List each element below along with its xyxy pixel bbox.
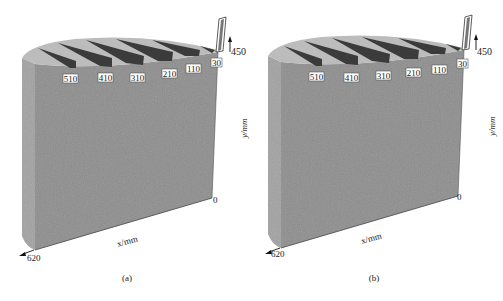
panel-a: 510 410 310 210 110 30 450 y/mm 0 x/mm 6… [19,17,249,283]
x-axis-end-tick: 620 [27,253,41,263]
y-axis-label: y/mm [487,116,497,137]
inlet-pipe [216,17,226,52]
y-axis-top-tick: 450 [231,46,246,57]
slot-label: 410 [99,73,113,83]
y-axis-label: y/mm [239,118,249,139]
x-axis-end-tick: 620 [271,249,285,259]
side-face [22,58,35,250]
panel-caption: (b) [369,273,380,283]
front-face [281,50,464,248]
slot-label: 30 [458,59,468,69]
x-axis-label: x/mm [360,231,383,246]
slot-label: 510 [310,72,324,82]
y-axis-bottom-tick: 0 [457,192,462,202]
slot-label: 410 [345,73,359,83]
slot-label: 210 [163,69,177,79]
panel-caption: (a) [122,273,132,283]
figure-canvas: 510 410 310 210 110 30 450 y/mm 0 x/mm 6… [0,0,503,301]
slot-label: 510 [64,74,78,84]
block-3d [19,17,232,256]
inlet-pipe [462,15,472,50]
y-axis-top-tick: 450 [477,46,492,57]
slot-label: 110 [187,64,201,74]
y-axis-bottom-tick: 0 [213,195,218,205]
side-face [268,56,281,248]
slot-label: 310 [131,73,145,83]
slot-label: 110 [433,65,447,75]
slot-label: 30 [212,58,222,68]
x-axis-label: x/mm [116,234,139,249]
panel-b: 510 410 310 210 110 30 450 y/mm 0 x/mm 6… [265,15,497,283]
block-3d [265,15,478,254]
slot-label: 310 [377,71,391,81]
slot-label: 210 [407,68,421,78]
front-face [35,52,218,250]
